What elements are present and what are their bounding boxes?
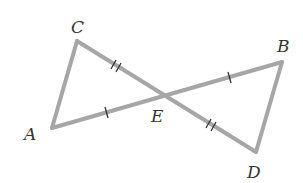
point-label-D: D bbox=[246, 162, 261, 182]
segment-AB bbox=[52, 62, 282, 128]
point-label-B: B bbox=[276, 36, 290, 56]
point-label-A: A bbox=[22, 124, 36, 144]
point-label-C: C bbox=[71, 17, 84, 37]
geometry-diagram: C A B D E bbox=[0, 0, 303, 183]
segment-BD bbox=[256, 62, 282, 152]
point-label-E: E bbox=[150, 106, 164, 126]
segment-AC bbox=[52, 41, 77, 128]
